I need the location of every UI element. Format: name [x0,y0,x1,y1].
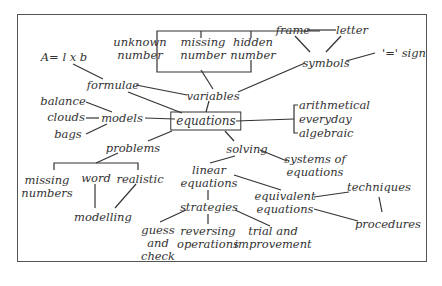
node-clouds: clouds [47,111,85,124]
node-word: word [81,172,111,185]
node-models: models [101,112,143,125]
node-unknown-number: unknown number [113,36,166,62]
node-frame: frame [276,24,310,37]
node-procedures: procedures [355,218,421,231]
node-equals-sign: '=' sign [382,47,426,60]
node-modelling: modelling [74,211,132,224]
node-guess-and-check: guess and check [141,224,175,263]
node-balance: balance [40,95,85,108]
node-linear-equations: linear equations [181,164,238,190]
node-problems: problems [106,142,160,155]
node-variables: variables [186,90,239,103]
node-symbols: symbols [302,57,349,70]
node-missing-numbers: missing numbers [21,174,72,200]
node-hidden-number: hidden number [230,36,275,62]
node-letter: letter [336,24,368,37]
node-systems-of-equations: systems of equations [284,153,345,179]
node-bags: bags [54,128,81,141]
node-equivalent-equations: equivalent equations [254,190,315,216]
node-arithmetical: arithmetical [299,99,370,112]
node-strategies: strategies [180,201,238,214]
node-area-formula: A= l x b [41,51,87,64]
node-equations-central: equations [170,112,241,131]
node-missing-number: missing number [180,36,225,62]
node-realistic: realistic [116,173,163,186]
node-reversing-operations: reversing operations [177,225,239,251]
node-algebraic: algebraic [299,127,354,140]
node-techniques: techniques [347,181,411,194]
node-trial-and-improvement: trial and improvement [234,225,311,251]
node-solving: solving [226,143,267,156]
node-everyday: everyday [299,113,352,126]
node-formulae: formulae [87,79,139,92]
